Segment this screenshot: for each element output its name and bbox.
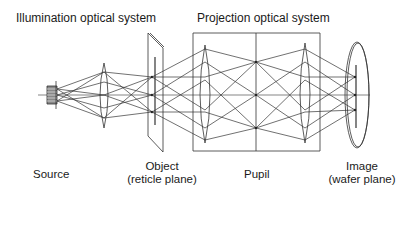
object-label: Object (reticle plane) — [120, 160, 204, 186]
source-label: Source — [33, 168, 69, 181]
pupil-label: Pupil — [244, 168, 270, 181]
projection-rays-object-side — [152, 49, 205, 140]
image-label: Image (wafer plane) — [322, 160, 402, 186]
image-label-line2: (wafer plane) — [322, 173, 402, 186]
object-label-line1: Object — [120, 160, 204, 173]
image-label-line1: Image — [322, 160, 402, 173]
projection-lens-1 — [200, 45, 210, 143]
source-lamp-icon — [47, 81, 57, 109]
object-label-line2: (reticle plane) — [120, 173, 204, 186]
